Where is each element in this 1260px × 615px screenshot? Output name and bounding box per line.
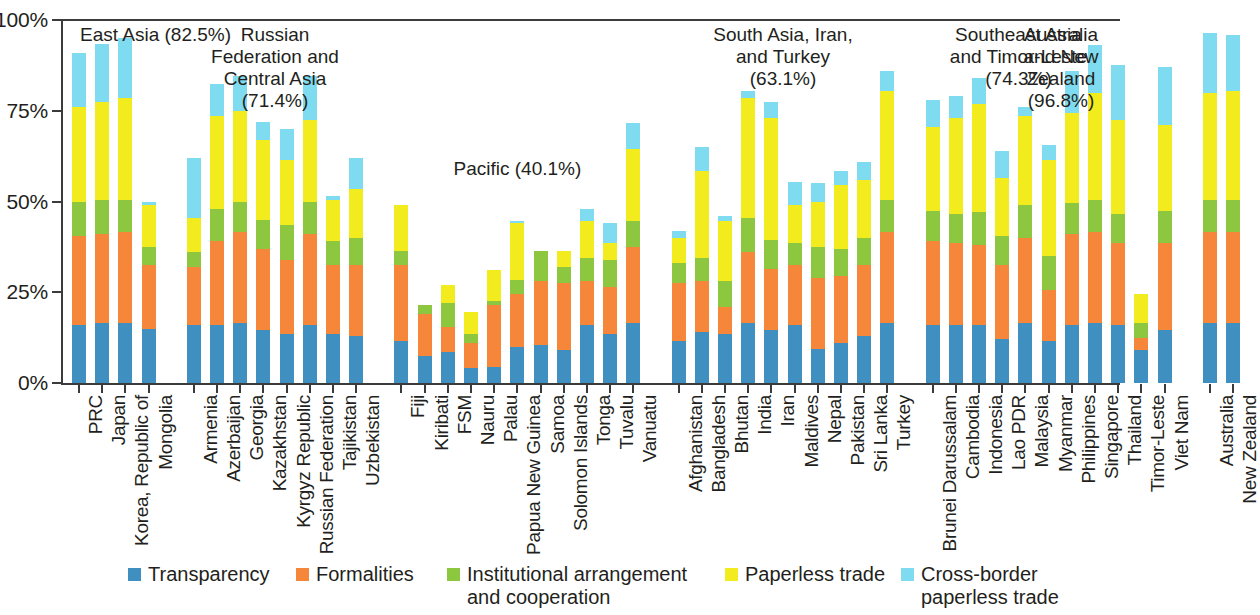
- bar-segment-institutional: [557, 267, 571, 283]
- bar-segment-crossborder: [580, 209, 594, 222]
- bar-segment-institutional: [349, 238, 363, 265]
- bar-segment-formalities: [1088, 232, 1102, 323]
- legend-item[interactable]: Cross-border paperless trade: [901, 563, 1120, 609]
- bar-segment-institutional: [464, 334, 478, 343]
- bar-segment-paperless: [788, 205, 802, 243]
- x-axis-tick-mark: [78, 384, 80, 393]
- x-axis-tick-mark: [863, 384, 865, 393]
- bar-segment-formalities: [695, 281, 709, 332]
- bar-segment-paperless: [834, 185, 848, 249]
- legend-item[interactable]: Formalities: [296, 563, 414, 586]
- bar-segment-transparency: [487, 367, 501, 383]
- bar-segment-formalities: [534, 281, 548, 345]
- bar-stack: [1134, 20, 1148, 383]
- bar-segment-transparency: [926, 325, 940, 383]
- y-axis-tick-label: 25%: [7, 280, 48, 304]
- bar-stack: [1203, 20, 1217, 383]
- bar-segment-institutional: [1158, 211, 1172, 244]
- bar-segment-formalities: [1065, 234, 1079, 325]
- x-axis-tick-mark: [770, 384, 772, 393]
- bar-segment-transparency: [1042, 341, 1056, 383]
- bar-stack: [672, 20, 686, 383]
- bar-stack: [534, 20, 548, 383]
- bar-segment-formalities: [118, 232, 132, 323]
- bar-segment-paperless: [349, 189, 363, 238]
- bar-segment-institutional: [95, 200, 109, 234]
- bar-segment-paperless: [72, 107, 86, 201]
- bar-segment-crossborder: [256, 122, 270, 140]
- y-axis-tick-label: 75%: [7, 99, 48, 123]
- bar-segment-formalities: [857, 265, 871, 336]
- bar-segment-paperless: [394, 205, 408, 250]
- x-axis-label: Myanmar: [1056, 395, 1075, 472]
- bar-segment-transparency: [210, 325, 224, 383]
- bar-segment-formalities: [603, 287, 617, 334]
- bar-segment-transparency: [326, 334, 340, 383]
- bar-segment-transparency: [142, 329, 156, 383]
- legend-label: Institutional arrangement and cooperatio…: [467, 563, 687, 609]
- bar-segment-paperless: [741, 98, 755, 218]
- bar-segment-transparency: [1203, 323, 1217, 383]
- legend-item[interactable]: Paperless trade: [725, 563, 885, 586]
- x-axis-label: Tajikistan: [340, 395, 359, 470]
- bar-segment-paperless: [811, 202, 825, 247]
- bar-segment-institutional: [326, 241, 340, 265]
- legend-swatch-icon: [296, 568, 309, 581]
- x-axis-label: Solomon Islands: [571, 395, 590, 531]
- bar-segment-transparency: [349, 336, 363, 383]
- x-axis-tick-mark: [747, 384, 749, 393]
- bar-segment-crossborder: [142, 202, 156, 206]
- bar-segment-institutional: [418, 305, 432, 314]
- x-axis-label: Korea, Republic of: [132, 395, 151, 546]
- bar-segment-crossborder: [741, 91, 755, 98]
- x-axis-tick-mark: [817, 384, 819, 393]
- bar-segment-institutional: [626, 221, 640, 246]
- x-axis-tick-mark: [216, 384, 218, 393]
- x-axis-tick-mark: [262, 384, 264, 393]
- x-axis-label: Tonga: [594, 395, 613, 445]
- legend-item[interactable]: Institutional arrangement and cooperatio…: [447, 563, 687, 609]
- x-axis-tick-mark: [193, 384, 195, 393]
- x-axis-label: Bhutan: [732, 395, 751, 453]
- x-axis-tick-mark: [932, 384, 934, 393]
- bar-segment-transparency: [857, 336, 871, 383]
- bar-segment-transparency: [1065, 325, 1079, 383]
- legend-item[interactable]: Transparency: [128, 563, 270, 586]
- bar-segment-institutional: [142, 247, 156, 265]
- bar-stack: [441, 20, 455, 383]
- x-axis-tick-mark: [886, 384, 888, 393]
- bar-stack: [557, 20, 571, 383]
- bar-segment-formalities: [788, 265, 802, 325]
- bar-segment-formalities: [626, 247, 640, 323]
- y-axis-tick-mark: [52, 110, 62, 112]
- bar-segment-transparency: [603, 334, 617, 383]
- bar-segment-formalities: [1203, 232, 1217, 323]
- bar-segment-crossborder: [603, 223, 617, 243]
- x-axis-tick-mark: [1094, 384, 1096, 393]
- bar-segment-formalities: [187, 267, 201, 325]
- bar-segment-crossborder: [95, 44, 109, 102]
- bar-segment-institutional: [487, 301, 501, 305]
- bar-segment-paperless: [118, 98, 132, 200]
- bar-segment-institutional: [995, 236, 1009, 265]
- x-axis-label: Fiji: [408, 395, 427, 418]
- bar-segment-crossborder: [510, 221, 524, 223]
- bar-stack: [394, 20, 408, 383]
- bar-segment-formalities: [949, 243, 963, 325]
- legend-swatch-icon: [128, 568, 141, 581]
- x-axis-label: Lao PDR: [1009, 395, 1028, 470]
- x-axis-tick-mark: [955, 384, 957, 393]
- bar-segment-transparency: [303, 325, 317, 383]
- bar-segment-institutional: [72, 202, 86, 236]
- bar-segment-formalities: [741, 252, 755, 323]
- y-axis-labels: 0%25%50%75%100%: [0, 0, 62, 403]
- x-axis-label: New Zealand: [1240, 395, 1259, 504]
- bar-segment-formalities: [441, 327, 455, 352]
- bar-segment-institutional: [741, 218, 755, 252]
- bar-segment-paperless: [764, 118, 778, 240]
- bar-segment-formalities: [811, 278, 825, 349]
- bar-segment-institutional: [233, 202, 247, 233]
- x-axis-tick-mark: [516, 384, 518, 393]
- bar-segment-formalities: [142, 265, 156, 329]
- x-axis-label: Samoa: [548, 395, 567, 454]
